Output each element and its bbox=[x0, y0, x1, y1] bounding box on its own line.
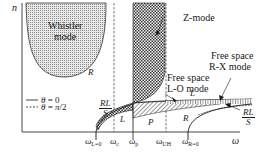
legend-dashed-text: θ = π/2 bbox=[41, 103, 67, 112]
free-space-lo-1: Free space bbox=[167, 73, 209, 83]
tick-omega-p: ωp bbox=[129, 137, 138, 147]
x-axis-label: ω bbox=[232, 136, 239, 146]
whistler-branch-r: R bbox=[88, 68, 94, 77]
frac-den: S bbox=[99, 109, 112, 118]
branch-p: P bbox=[148, 118, 154, 127]
tick-omega-r0: ωR=0 bbox=[182, 137, 199, 147]
dispersion-diagram bbox=[0, 0, 270, 152]
tick-omega-c: ωc bbox=[110, 137, 119, 147]
branch-r-high: R bbox=[183, 114, 189, 123]
tick-omega-l0: ωL=0 bbox=[85, 137, 101, 147]
frac-den: S bbox=[242, 118, 255, 127]
rx-pointer bbox=[221, 78, 231, 98]
free-space-rx-2: R-X mode bbox=[209, 62, 251, 72]
y-axis-label: n bbox=[12, 3, 17, 13]
whistler-label-2: mode bbox=[54, 32, 76, 42]
branch-l-low: L bbox=[120, 115, 125, 124]
tick-omega-uh: ωUH bbox=[156, 137, 171, 147]
whistler-label-1: Whistler bbox=[48, 21, 82, 31]
free-space-lo-2: L-O mode bbox=[167, 84, 208, 94]
branch-l-high: L bbox=[190, 89, 195, 98]
free-space-rx-1: Free space bbox=[211, 51, 253, 61]
zmode-label: Z-mode bbox=[183, 13, 215, 23]
rl-over-s-left: RLS bbox=[99, 99, 112, 119]
rl-over-s-right: RLS bbox=[242, 108, 255, 128]
zmode-region bbox=[133, 3, 165, 103]
